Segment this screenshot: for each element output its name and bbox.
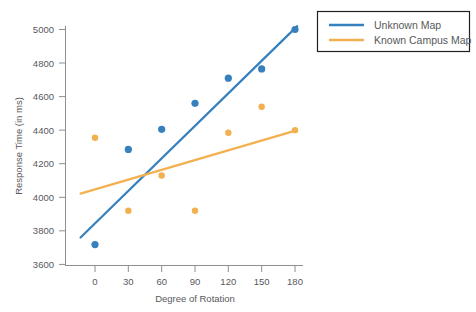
data-point xyxy=(225,129,231,135)
y-axis-ticks xyxy=(59,30,66,265)
x-tick-label: 0 xyxy=(92,276,97,287)
y-axis-tick-labels: 5000 4800 4600 4400 4200 4000 3800 3600 xyxy=(33,24,54,270)
x-tick-label: 180 xyxy=(287,276,303,287)
x-axis-tick-labels: 0 30 60 90 120 150 180 xyxy=(92,276,303,287)
chart-figure: 5000 4800 4600 4400 4200 4000 3800 3600 … xyxy=(0,0,476,312)
data-point xyxy=(92,135,98,141)
data-point xyxy=(225,75,232,82)
data-point xyxy=(292,127,298,133)
x-tick-label: 150 xyxy=(254,276,270,287)
data-layer xyxy=(81,26,299,248)
trendline-known-campus-map xyxy=(81,130,298,193)
legend-label-known-campus-map: Known Campus Map xyxy=(374,34,472,46)
legend-label-unknown-map: Unknown Map xyxy=(374,19,441,31)
data-point xyxy=(258,103,264,109)
data-point xyxy=(192,208,198,214)
y-tick-label: 3800 xyxy=(33,225,54,236)
legend: Unknown Map Known Campus Map xyxy=(318,12,472,52)
scatter-plot: 5000 4800 4600 4400 4200 4000 3800 3600 … xyxy=(0,0,476,312)
y-tick-label: 3600 xyxy=(33,259,54,270)
y-tick-label: 4200 xyxy=(33,158,54,169)
y-tick-label: 4800 xyxy=(33,58,54,69)
x-axis-ticks xyxy=(95,266,295,273)
y-tick-label: 4600 xyxy=(33,91,54,102)
data-point xyxy=(191,100,198,107)
y-tick-label: 5000 xyxy=(33,24,54,35)
x-axis-title: Degree of Rotation xyxy=(155,293,235,304)
y-axis-title: Response Time (in ms) xyxy=(13,97,24,195)
x-tick-label: 30 xyxy=(123,276,134,287)
data-point xyxy=(291,26,298,33)
data-point xyxy=(125,146,132,153)
legend-box xyxy=(318,12,470,52)
x-tick-label: 90 xyxy=(190,276,201,287)
data-point xyxy=(158,172,164,178)
data-point xyxy=(258,65,265,72)
data-point xyxy=(158,126,165,133)
data-point xyxy=(91,241,98,248)
x-tick-label: 120 xyxy=(220,276,236,287)
y-tick-label: 4400 xyxy=(33,125,54,136)
trendline-unknown-map xyxy=(81,26,298,237)
data-point xyxy=(125,208,131,214)
x-tick-label: 60 xyxy=(156,276,167,287)
y-tick-label: 4000 xyxy=(33,192,54,203)
